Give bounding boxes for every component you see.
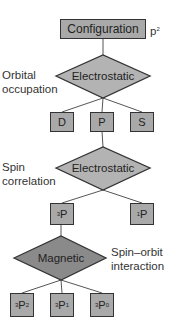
spin-correlation-label: Spin correlation [2,160,56,188]
sub: 0 [106,302,109,308]
p-sup: 2 [156,26,159,32]
label: P [140,208,147,220]
configuration-label: Configuration [67,22,138,36]
stage3-line2: interaction [111,259,164,273]
stage2-line2: correlation [2,174,56,188]
multiplet-box-3p: 3P [50,203,74,225]
electrostatic-2-text: Electrostatic [72,162,135,174]
stage1-line2: occupation [2,82,58,96]
label: P [60,208,67,220]
magnetic-text: Magnetic [38,252,85,264]
stage1-line1: Orbital [2,68,58,82]
p2-annotation: p2 [150,22,160,38]
level-box-3p2: 3P2 [10,293,34,317]
sub: 1 [66,302,69,308]
term-box-p: P [90,112,114,132]
spin-orbit-label: Spin–orbit interaction [111,245,164,273]
configuration-box: Configuration [60,19,146,39]
term-s: S [138,116,145,128]
sub: 2 [26,302,29,308]
stage2-line1: Spin [2,160,56,174]
term-p: P [98,116,105,128]
orbital-occupation-label: Orbital occupation [2,68,58,96]
electrostatic-1-text: Electrostatic [72,70,135,82]
label: P [98,299,105,311]
multiplet-box-1p: 1P [130,203,154,225]
term-box-s: S [130,112,154,132]
label: P [58,299,65,311]
stage3-line1: Spin–orbit [111,245,164,259]
label: P [18,299,25,311]
level-box-3p0: 3P0 [90,293,114,317]
term-d: D [58,116,66,128]
term-box-d: D [50,112,74,132]
level-box-3p1: 3P1 [50,293,74,317]
